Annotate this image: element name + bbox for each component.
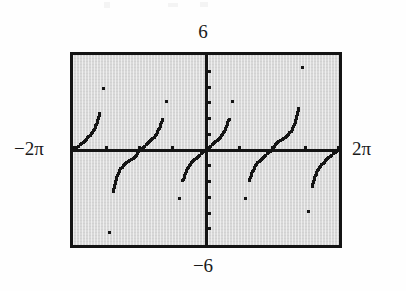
calculator-screenshot: 6 −2π 2π −6 <box>0 0 406 291</box>
scan-artifact <box>200 2 208 7</box>
scan-artifact <box>168 3 178 7</box>
x-min-label: −2π <box>14 139 44 158</box>
plot-frame <box>70 52 342 248</box>
x-max-label: 2π <box>352 139 371 158</box>
tangent-plot-canvas <box>73 55 339 245</box>
y-max-label: 6 <box>0 22 406 41</box>
scan-artifact <box>104 2 110 8</box>
y-min-label: −6 <box>0 256 406 275</box>
